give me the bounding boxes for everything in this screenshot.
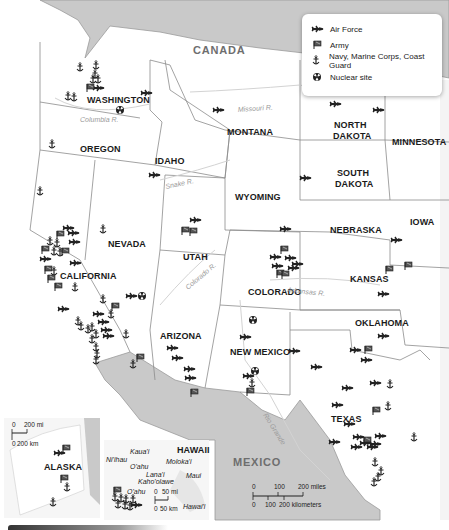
- legend-label: Army: [330, 41, 349, 50]
- label-oahu: O'ahu: [130, 463, 149, 470]
- label-oklahoma: OKLAHOMA: [355, 318, 409, 328]
- bottom-decorative-bar: [8, 525, 168, 530]
- svg-text:200 kilometers: 200 kilometers: [279, 501, 322, 508]
- svg-text:0: 0: [154, 488, 158, 495]
- label-hawaii-island: Hawai'i: [183, 503, 206, 510]
- label-new-mexico: NEW MEXICO: [230, 347, 290, 357]
- label-nebraska: NEBRASKA: [330, 225, 382, 235]
- label-california: CALIFORNIA: [60, 271, 117, 281]
- svg-text:100: 100: [265, 501, 276, 508]
- label-mexico: MEXICO: [233, 456, 281, 468]
- svg-text:200 miles: 200 miles: [298, 483, 327, 490]
- svg-text:200 km: 200 km: [17, 440, 38, 447]
- svg-text:0: 0: [12, 440, 16, 447]
- label-columbia-river: Columbia R.: [80, 116, 119, 123]
- label-lanai: Lana'i: [146, 471, 165, 478]
- label-south-dakota-line2: DAKOTA: [335, 179, 374, 189]
- svg-text:0: 0: [252, 501, 256, 508]
- label-niihau: Ni'ihau: [106, 456, 127, 463]
- label-kauai: Kaua'i: [130, 448, 150, 455]
- svg-text:200 mi: 200 mi: [24, 421, 44, 428]
- label-idaho: IDAHO: [155, 156, 185, 166]
- legend-item-nuclear: Nuclear site: [308, 70, 372, 84]
- label-north-dakota-line1: NORTH: [334, 120, 367, 130]
- nuclear-site-icon: [308, 71, 326, 83]
- label-iowa: IOWA: [410, 217, 435, 227]
- label-alaska: ALASKA: [44, 462, 82, 472]
- label-washington: WASHINGTON: [87, 95, 150, 105]
- label-wyoming: WYOMING: [235, 192, 281, 202]
- svg-text:100: 100: [274, 483, 285, 490]
- label-oregon: OREGON: [80, 144, 121, 154]
- label-oahu-inset: O'ahu: [127, 488, 146, 495]
- label-kahoolawe: Kaho'olawe: [138, 478, 174, 485]
- label-maui: Maui: [186, 472, 202, 479]
- svg-text:0: 0: [252, 483, 256, 490]
- svg-text:0: 0: [154, 505, 158, 512]
- label-kansas: KANSAS: [350, 274, 389, 284]
- map-legend: Air Force Army Navy, Marine Corps, Coast…: [302, 14, 442, 96]
- legend-label: Navy, Marine Corps, Coast Guard: [329, 52, 442, 70]
- label-arizona: ARIZONA: [160, 331, 202, 341]
- legend-item-air-force: Air Force: [308, 22, 362, 36]
- label-texas: TEXAS: [331, 414, 362, 424]
- label-south-dakota-line1: SOUTH: [337, 168, 369, 178]
- svg-text:0: 0: [12, 421, 16, 428]
- navy-anchor-icon: [308, 55, 325, 67]
- label-montana: MONTANA: [227, 127, 273, 137]
- label-utah: UTAH: [183, 252, 208, 262]
- army-flag-icon: [308, 39, 326, 51]
- label-molokai: Moloka'i: [166, 458, 192, 465]
- legend-label: Nuclear site: [330, 73, 372, 82]
- label-hawaii: HAWAII: [177, 445, 210, 455]
- svg-text:50 km: 50 km: [160, 505, 178, 512]
- svg-text:50 mi: 50 mi: [162, 488, 178, 495]
- air-force-jet-icon: [308, 24, 326, 34]
- legend-label: Air Force: [330, 25, 362, 34]
- label-nevada: NEVADA: [108, 239, 146, 249]
- legend-item-navy: Navy, Marine Corps, Coast Guard: [308, 54, 442, 68]
- legend-item-army: Army: [308, 38, 349, 52]
- label-canada: CANADA: [193, 44, 245, 56]
- label-minnesota: MINNESOTA: [392, 137, 447, 147]
- label-north-dakota-line2: DAKOTA: [333, 131, 372, 141]
